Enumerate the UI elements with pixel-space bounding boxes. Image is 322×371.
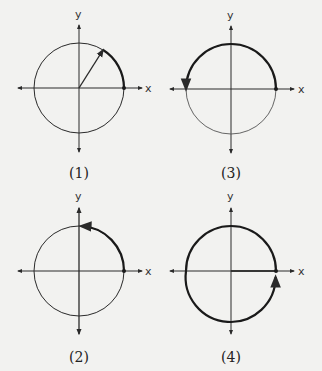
terminal-ray — [79, 50, 103, 88]
initial-point — [122, 86, 126, 90]
x-axis-label: x — [298, 83, 305, 96]
x-axis-label: x — [298, 265, 305, 278]
panel-2: y x (2) — [18, 190, 152, 365]
panel-4: y x (4) — [170, 190, 305, 365]
y-axis-label: y — [227, 9, 234, 22]
y-axis-label: y — [75, 190, 82, 203]
unit-circle-figure: y x (1) y x (3) y x (2) y x (4) — [0, 0, 322, 371]
initial-point — [122, 269, 126, 273]
panel-1: y x (1) — [18, 8, 152, 181]
x-axis-label: x — [145, 265, 152, 278]
panel-caption: (2) — [69, 349, 89, 365]
x-axis-label: x — [145, 82, 152, 95]
panel-caption: (3) — [221, 165, 241, 181]
panel-caption: (1) — [69, 165, 89, 181]
y-axis-label: y — [75, 8, 82, 21]
panel-3: y x (3) — [170, 9, 305, 181]
initial-point — [274, 269, 278, 273]
initial-point — [274, 87, 278, 91]
angle-arc — [103, 50, 124, 88]
y-axis-label: y — [227, 190, 234, 203]
panel-caption: (4) — [221, 349, 241, 365]
angle-arc — [81, 226, 124, 271]
